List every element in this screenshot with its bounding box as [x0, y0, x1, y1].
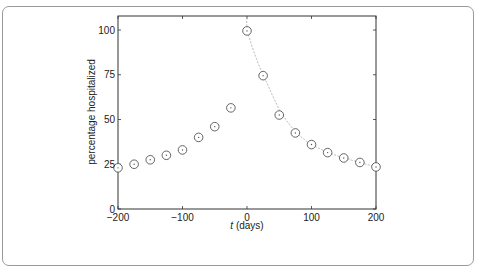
data-point-marker: [259, 71, 268, 80]
data-point-marker: [227, 104, 236, 113]
data-point-marker: [339, 154, 348, 163]
x-axis-label: t (days): [230, 220, 263, 231]
x-tick-label: 200: [368, 212, 385, 223]
x-tick-label: −100: [171, 212, 194, 223]
data-point-marker: [194, 133, 203, 142]
data-point-marker: [243, 27, 252, 36]
axes-box: [118, 16, 376, 209]
data-point-marker: [356, 158, 365, 167]
data-points: [114, 27, 381, 173]
y-tick-label: 100: [98, 25, 115, 36]
y-tick-label: 75: [104, 69, 116, 80]
data-point-marker: [307, 140, 316, 149]
data-point-marker: [130, 160, 139, 169]
data-point-marker: [162, 151, 171, 160]
data-point-marker: [323, 148, 332, 157]
data-point-marker: [372, 163, 381, 172]
y-axis-label: percentage hospitalized: [86, 59, 97, 165]
plot-axes: [118, 16, 376, 209]
y-tick-label: 0: [109, 204, 115, 215]
x-tick-label: 100: [303, 212, 320, 223]
data-point-marker: [146, 155, 155, 164]
data-point-marker: [291, 129, 300, 138]
data-point-marker: [178, 146, 187, 155]
tick-labels: −200−10001002000255075100: [98, 25, 384, 224]
y-tick-label: 25: [104, 159, 116, 170]
y-tick-label: 50: [104, 114, 116, 125]
data-point-marker: [210, 122, 219, 131]
data-point-marker: [275, 111, 284, 120]
